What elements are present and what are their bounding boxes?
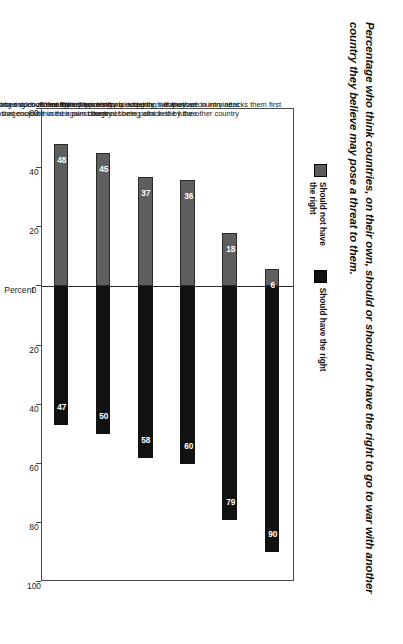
bar-value-label: 50: [92, 412, 116, 420]
bar-should-not-have-the-right: [54, 144, 69, 286]
bar-value-label: 90: [261, 530, 285, 538]
chart-legend: Should not have the right Should have th…: [299, 164, 327, 371]
axis-tick-label: 40: [29, 404, 38, 414]
bar-value-label: 6: [261, 280, 285, 288]
legend-item-should-not-have-the-right: Should not have the right: [308, 164, 327, 246]
legend-item-should-have-the-right: Should have the right: [314, 270, 327, 372]
bar-value-label: 79: [219, 498, 243, 506]
figure: Percentage who think countries, on their…: [4, 4, 399, 640]
bar-value-label: 60: [176, 442, 200, 450]
rotated-figure-container: Percentage who think countries, on their…: [4, 4, 399, 640]
category-label: To preserve access to vital resources su…: [0, 100, 70, 109]
bar-value-label: 37: [134, 189, 158, 197]
plot-area: 90679186036583750454748: [41, 108, 294, 581]
bar-should-have-the-right: [265, 286, 280, 552]
bar-should-have-the-right: [180, 286, 195, 463]
legend-label-should-have-the-right: Should have the right: [317, 288, 327, 372]
percent-axis: 604020020406080100Percent: [3, 108, 41, 581]
axis-tick-label: 100: [27, 581, 41, 591]
bar-value-label: 47: [50, 403, 74, 411]
legend-swatch-should-have-the-right: [314, 270, 327, 283]
legend-swatch-should-not-have-the-right: [314, 164, 327, 177]
chart-title: Percentage who think countries, on their…: [346, 22, 377, 622]
bar-value-label: 58: [134, 436, 158, 444]
axis-tick-label: 80: [29, 522, 38, 532]
axis-tick-label: 60: [29, 463, 38, 473]
bar-value-label: 18: [219, 245, 243, 253]
figure-page: Percentage who think countries, on their…: [0, 0, 403, 644]
zero-baseline: [42, 286, 293, 287]
bar-value-label: 36: [176, 192, 200, 200]
bar-value-label: 45: [92, 165, 116, 173]
axis-tick-label: 40: [29, 167, 38, 177]
bar-should-have-the-right: [138, 286, 153, 457]
axis-tick-label: 20: [29, 226, 38, 236]
legend-label-should-not-have-the-right: Should not have the right: [308, 182, 327, 246]
axis-tick-label: 20: [29, 345, 38, 355]
bar-should-have-the-right: [223, 286, 238, 520]
bar-should-not-have-the-right: [223, 233, 238, 286]
axis-title: Percent: [4, 285, 34, 295]
axis-tick: [36, 285, 41, 286]
bar-value-label: 48: [50, 156, 74, 164]
